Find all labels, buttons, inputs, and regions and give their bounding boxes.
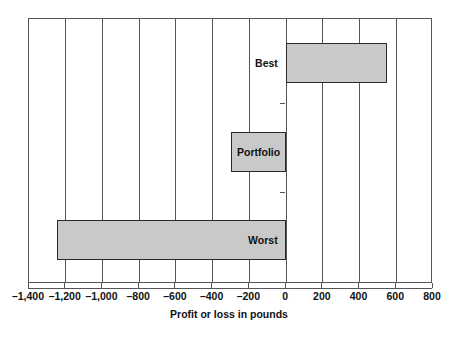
x-axis-tick-label: –600 (163, 291, 186, 302)
page-artifact (0, 330, 458, 334)
x-axis-tick-label: –1,400 (12, 291, 44, 302)
zero-axis-stub-tick (280, 192, 285, 193)
bar-best (286, 43, 387, 83)
x-axis-tick-label: –800 (126, 291, 149, 302)
bar-chart: BestPortfolioWorst Profit or loss in pou… (0, 0, 458, 340)
bar-label-best: Best (255, 58, 278, 69)
x-axis-tick-label: –400 (200, 291, 223, 302)
x-axis-tick-label: 800 (423, 291, 441, 302)
zero-axis-stub-tick (280, 103, 285, 104)
x-axis-line (28, 288, 432, 289)
x-axis-tick-label: 200 (313, 291, 331, 302)
x-axis-tick-label: –1,000 (85, 291, 117, 302)
plot-area: BestPortfolioWorst (28, 18, 432, 283)
x-axis-tick-label: –1,200 (49, 291, 81, 302)
x-axis-title: Profit or loss in pounds (0, 309, 458, 320)
x-axis-tick-label: –200 (237, 291, 260, 302)
x-axis-tick-label: 0 (282, 291, 288, 302)
bar-label-worst: Worst (248, 235, 278, 246)
gridline (396, 19, 397, 282)
x-axis-tick-label: 400 (350, 291, 368, 302)
bar-label-portfolio: Portfolio (237, 147, 280, 158)
x-axis-tick-label: 600 (387, 291, 405, 302)
